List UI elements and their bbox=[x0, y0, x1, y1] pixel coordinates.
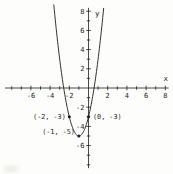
x-axis-tick-label: 6 bbox=[144, 92, 148, 100]
scan-smudge bbox=[3, 166, 19, 172]
x-axis-tick-label: 4 bbox=[125, 92, 129, 100]
x-axis-tick-label: 8 bbox=[163, 92, 167, 100]
data-point-dot bbox=[68, 115, 71, 118]
y-axis-tick-label: -6 bbox=[76, 142, 84, 150]
parabola-plot: -6-4-22468-6-4-22468xy(-2, -3)(0, -3)(-1… bbox=[0, 0, 173, 174]
x-axis-tick-label: -6 bbox=[27, 92, 35, 100]
data-point-dot bbox=[87, 115, 90, 118]
data-point-label: (-1, -5) bbox=[42, 128, 75, 136]
x-axis-tick-label: -2 bbox=[65, 92, 73, 100]
y-axis-tick-label: -2 bbox=[76, 104, 84, 112]
x-axis-tick-label: -4 bbox=[46, 92, 54, 100]
data-point-label: (-2, -3) bbox=[33, 113, 66, 121]
data-point-label: (0, -3) bbox=[93, 113, 122, 121]
y-axis-tick-label: -4 bbox=[76, 123, 84, 131]
graph-canvas: -6-4-22468-6-4-22468xy(-2, -3)(0, -3)(-1… bbox=[0, 0, 173, 174]
x-axis-tick-label: 2 bbox=[106, 92, 110, 100]
y-axis-tick-label: 2 bbox=[80, 65, 84, 73]
y-axis-tick-label: 6 bbox=[80, 27, 84, 35]
data-point-dot bbox=[77, 135, 80, 138]
y-axis-tick-label: 8 bbox=[80, 8, 84, 16]
y-axis-tick-label: 4 bbox=[80, 46, 84, 54]
x-axis-letter: x bbox=[164, 74, 169, 83]
y-axis-letter: y bbox=[95, 9, 100, 18]
